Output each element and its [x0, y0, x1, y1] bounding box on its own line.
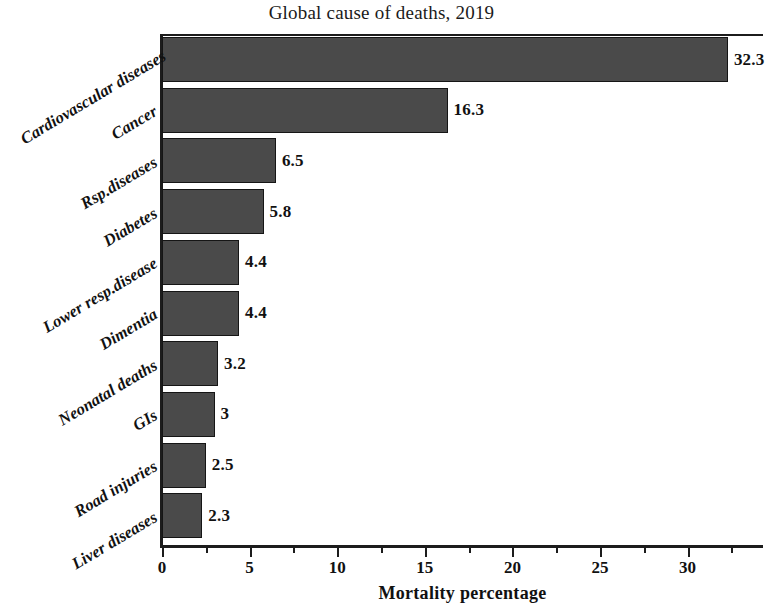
bar	[162, 189, 264, 234]
bar	[162, 493, 202, 538]
bar-value-label: 4.4	[245, 303, 267, 323]
x-tick-minor	[731, 546, 733, 553]
bar	[162, 392, 215, 437]
bar	[162, 240, 239, 285]
x-tick-minor	[469, 546, 471, 553]
x-tick-label: 0	[158, 558, 167, 578]
x-tick-label: 25	[592, 558, 609, 578]
bar-row: 6.5	[162, 138, 346, 183]
bar-value-label: 4.4	[245, 252, 267, 272]
bar-value-label: 3	[221, 404, 230, 424]
category-label: Dimentia	[17, 304, 161, 401]
x-tick-major	[162, 546, 164, 557]
bar	[162, 88, 448, 133]
bar	[162, 291, 239, 336]
category-label: Liver diseases	[17, 507, 161, 604]
bar-row: 32.3	[162, 37, 769, 82]
x-tick-minor	[381, 546, 383, 553]
category-label: GIs	[17, 406, 161, 503]
x-tick-minor	[206, 546, 208, 553]
x-tick-minor	[644, 546, 646, 553]
x-tick-major	[425, 546, 427, 557]
category-label: Lower resp.disease	[17, 254, 161, 351]
x-axis-title: Mortality percentage	[162, 583, 763, 604]
bar-value-label: 2.5	[212, 455, 234, 475]
x-tick-minor	[293, 546, 295, 553]
bar	[162, 341, 218, 386]
x-tick-label: 5	[245, 558, 254, 578]
category-label: Road injuries	[17, 457, 161, 554]
chart-title: Global cause of deaths, 2019	[0, 2, 763, 24]
category-label: Neonatal deaths	[17, 355, 161, 452]
bar-row: 2.3	[162, 493, 272, 538]
category-label: Diabetes	[17, 203, 161, 300]
bar	[162, 443, 206, 488]
x-tick-major	[688, 546, 690, 557]
bar-row: 5.8	[162, 189, 334, 234]
x-tick-major	[600, 546, 602, 557]
bar-value-label: 6.5	[282, 151, 304, 171]
x-tick-minor	[556, 546, 558, 553]
x-tick-label: 15	[416, 558, 433, 578]
category-label: Cancer	[17, 102, 161, 199]
x-tick-label: 30	[679, 558, 696, 578]
bar-row: 3	[162, 392, 285, 437]
bar-row: 2.5	[162, 443, 276, 488]
category-label: Cardiovascular diseases	[17, 51, 161, 148]
bar	[162, 37, 728, 82]
x-tick-label: 20	[504, 558, 521, 578]
bar-row: 16.3	[162, 88, 518, 133]
bar-value-label: 32.3	[734, 50, 765, 70]
bar-value-label: 3.2	[224, 354, 246, 374]
x-tick-label: 10	[329, 558, 346, 578]
x-tick-major	[250, 546, 252, 557]
bar-row: 3.2	[162, 341, 288, 386]
bar-row: 4.4	[162, 291, 309, 336]
bar-value-label: 16.3	[454, 100, 485, 120]
x-tick-major	[512, 546, 514, 557]
bar-row: 4.4	[162, 240, 309, 285]
category-label: Rsp.diseases	[17, 152, 161, 249]
x-tick-major	[337, 546, 339, 557]
bar-value-label: 5.8	[270, 202, 292, 222]
bar	[162, 138, 276, 183]
bar-value-label: 2.3	[208, 506, 230, 526]
